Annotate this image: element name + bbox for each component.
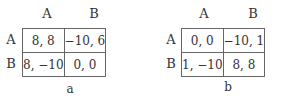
- payoff-table-a: 8, 8 −10, 6 8, −10 0, 0: [22, 28, 106, 77]
- caption-b: b: [218, 80, 238, 94]
- row-header-b: B: [4, 56, 18, 71]
- cell-ba: 1, −10: [182, 53, 224, 77]
- cell-ab: −10, 1: [223, 29, 265, 53]
- caption-a: a: [60, 82, 80, 96]
- col-header-a: A: [184, 6, 224, 21]
- row-header-a: A: [164, 32, 178, 47]
- cell-bb: 0, 0: [64, 53, 106, 77]
- cell-ba: 8, −10: [23, 53, 65, 77]
- col-header-b: B: [233, 6, 273, 21]
- cell-ab: −10, 6: [64, 29, 106, 53]
- cell-aa: 8, 8: [23, 29, 65, 53]
- cell-aa: 0, 0: [182, 29, 224, 53]
- payoff-table-b: 0, 0 −10, 1 1, −10 8, 8: [181, 28, 265, 77]
- cell-bb: 8, 8: [223, 53, 265, 77]
- row-header-a: A: [4, 32, 18, 47]
- row-header-b: B: [164, 56, 178, 71]
- col-header-b: B: [74, 6, 114, 21]
- col-header-a: A: [27, 6, 67, 21]
